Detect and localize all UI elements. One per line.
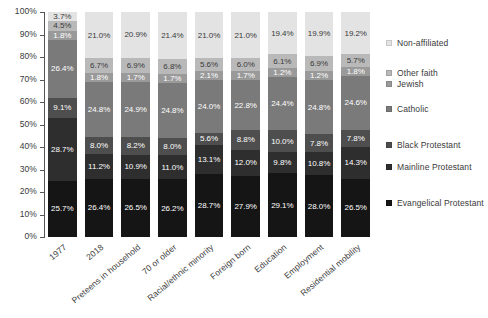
bar-segment[interactable]: 1.8% bbox=[85, 73, 114, 82]
bar-segment[interactable]: 1.7% bbox=[231, 71, 260, 80]
bar-segment[interactable]: 13.1% bbox=[195, 145, 224, 174]
bar-segment[interactable]: 6.9% bbox=[305, 56, 334, 71]
bar-column[interactable]: 3.7%4.5%1.8%26.4%9.1%28.7%25.7% bbox=[44, 12, 81, 237]
bar-segment[interactable]: 24.8% bbox=[85, 82, 114, 137]
bar-segment[interactable]: 10.9% bbox=[121, 155, 150, 179]
bar-segment[interactable]: 26.2% bbox=[158, 179, 187, 237]
bar-segment[interactable]: 5.6% bbox=[195, 58, 224, 70]
bar-segment[interactable]: 8.0% bbox=[85, 137, 114, 155]
bar-segment[interactable]: 26.4% bbox=[85, 179, 114, 237]
bar-segment-value-label: 8.0% bbox=[90, 141, 108, 150]
bar-segment-value-label: 4.5% bbox=[53, 21, 71, 30]
legend-item[interactable]: Black Protestant bbox=[386, 140, 461, 150]
bar-segment[interactable]: 24.8% bbox=[158, 83, 187, 138]
bar-segment[interactable]: 24.6% bbox=[341, 76, 370, 130]
bar-segment[interactable]: 19.4% bbox=[268, 12, 297, 54]
legend-item[interactable]: Jewish bbox=[386, 79, 424, 89]
bar-segment[interactable]: 25.7% bbox=[48, 181, 77, 237]
bar-segment[interactable]: 28.7% bbox=[48, 118, 77, 181]
bar-segment-value-label: 1.8% bbox=[53, 31, 71, 40]
bar-segment[interactable]: 12.0% bbox=[231, 150, 260, 176]
x-axis-label-cell: Residential mobility bbox=[337, 240, 374, 318]
legend-swatch-icon bbox=[386, 164, 392, 170]
bar-segment[interactable]: 21.0% bbox=[231, 12, 260, 58]
bar-segment[interactable]: 26.5% bbox=[121, 179, 150, 237]
bar-segment-value-label: 6.0% bbox=[237, 60, 255, 69]
bar-segment[interactable]: 10.0% bbox=[268, 130, 297, 152]
bar-segment-value-label: 10.8% bbox=[308, 159, 330, 168]
bar-segment[interactable]: 1.8% bbox=[341, 67, 370, 76]
y-axis-tick-label: 0% bbox=[25, 231, 38, 241]
bar-segment[interactable]: 8.0% bbox=[158, 138, 187, 156]
bar-segment[interactable]: 27.9% bbox=[231, 176, 260, 237]
bar-segment[interactable]: 1.7% bbox=[158, 74, 187, 83]
bar-segment[interactable]: 21.0% bbox=[85, 12, 114, 58]
bar-segment[interactable]: 9.8% bbox=[268, 152, 297, 173]
bar-segment[interactable]: 8.8% bbox=[231, 130, 260, 149]
bar-segment[interactable]: 3.7% bbox=[48, 12, 77, 21]
legend-item[interactable]: Other faith bbox=[386, 68, 438, 78]
x-axis-label-cell: Foreign born bbox=[227, 240, 264, 318]
bar-segment[interactable]: 26.5% bbox=[341, 179, 370, 237]
bar-column[interactable]: 21.0%6.7%1.8%24.8%8.0%11.2%26.4% bbox=[81, 12, 118, 237]
legend-item[interactable]: Catholic bbox=[386, 104, 429, 114]
bar-segment[interactable]: 11.2% bbox=[85, 154, 114, 179]
bar-segment-value-label: 24.8% bbox=[88, 105, 110, 114]
bar-segment-value-label: 28.7% bbox=[51, 145, 73, 154]
bar-column[interactable]: 19.4%6.1%1.2%24.4%10.0%9.8%29.1% bbox=[264, 12, 301, 237]
bar-segment[interactable]: 10.8% bbox=[305, 152, 334, 176]
bar-segment[interactable]: 6.7% bbox=[85, 58, 114, 73]
bar-segment[interactable]: 7.8% bbox=[305, 134, 334, 151]
bar-segment[interactable]: 26.4% bbox=[48, 40, 77, 98]
bar-column[interactable]: 21.0%5.6%2.1%24.0%5.6%13.1%28.7% bbox=[191, 12, 228, 237]
bar-segment[interactable]: 2.1% bbox=[195, 71, 224, 80]
bar-segment-value-label: 21.4% bbox=[161, 31, 183, 40]
y-axis-tick-label: 70% bbox=[20, 74, 37, 84]
bar-segment[interactable]: 1.7% bbox=[121, 73, 150, 82]
bar-segment[interactable]: 6.9% bbox=[121, 58, 150, 73]
bar-segment[interactable]: 8.2% bbox=[121, 137, 150, 155]
bar-segment[interactable]: 5.7% bbox=[341, 54, 370, 67]
bar-segment[interactable]: 20.9% bbox=[121, 12, 150, 58]
bar-segment[interactable]: 4.5% bbox=[48, 21, 77, 31]
bar-segment[interactable]: 1.2% bbox=[268, 68, 297, 77]
bar-segment[interactable]: 24.8% bbox=[305, 80, 334, 135]
legend-item[interactable]: Non-affiliated bbox=[386, 38, 448, 48]
legend-item[interactable]: Evangelical Protestant bbox=[386, 198, 484, 208]
bar-segment[interactable]: 19.9% bbox=[305, 12, 334, 56]
bar-segment[interactable]: 24.4% bbox=[268, 77, 297, 130]
bar-segment[interactable]: 19.2% bbox=[341, 12, 370, 54]
legend-swatch-icon bbox=[386, 70, 392, 76]
bar-segment-value-label: 28.7% bbox=[198, 201, 220, 210]
bar-segment[interactable]: 1.8% bbox=[48, 31, 77, 40]
bar-segment-value-label: 24.8% bbox=[161, 106, 183, 115]
bar-segment[interactable]: 24.9% bbox=[121, 82, 150, 137]
bar-column[interactable]: 20.9%6.9%1.7%24.9%8.2%10.9%26.5% bbox=[117, 12, 154, 237]
bar-segment[interactable]: 6.0% bbox=[231, 58, 260, 71]
bar-column[interactable]: 21.0%6.0%1.7%22.8%8.8%12.0%27.9% bbox=[227, 12, 264, 237]
y-axis-tick-label: 20% bbox=[20, 186, 37, 196]
bar-segment[interactable]: 6.1% bbox=[268, 54, 297, 67]
bar-segment[interactable]: 11.0% bbox=[158, 155, 187, 179]
bar-segment-value-label: 24.8% bbox=[308, 103, 330, 112]
bar-segment[interactable]: 29.1% bbox=[268, 173, 297, 237]
bar-column[interactable]: 21.4%6.8%1.7%24.8%8.0%11.0%26.2% bbox=[154, 12, 191, 237]
bar-column[interactable]: 19.2%5.7%1.8%24.6%7.8%14.3%26.5% bbox=[337, 12, 374, 237]
bar-segment[interactable]: 7.8% bbox=[341, 130, 370, 147]
y-axis-tick-label: 100% bbox=[15, 6, 37, 16]
bar-segment-value-label: 26.5% bbox=[124, 203, 146, 212]
bar-segment[interactable]: 21.4% bbox=[158, 12, 187, 59]
bar-segment[interactable]: 1.2% bbox=[305, 71, 334, 80]
bar-segment[interactable]: 28.0% bbox=[305, 175, 334, 237]
bar-column[interactable]: 19.9%6.9%1.2%24.8%7.8%10.8%28.0% bbox=[301, 12, 338, 237]
bar-segment[interactable]: 6.8% bbox=[158, 59, 187, 74]
bar-segment[interactable]: 28.7% bbox=[195, 174, 224, 237]
bar-segment[interactable]: 24.0% bbox=[195, 80, 224, 133]
bar-segment[interactable]: 14.3% bbox=[341, 147, 370, 178]
bar-segment[interactable]: 21.0% bbox=[195, 12, 224, 58]
bar-segment[interactable]: 9.1% bbox=[48, 98, 77, 118]
bar-segment[interactable]: 22.8% bbox=[231, 80, 260, 130]
bar-segment[interactable]: 5.6% bbox=[195, 133, 224, 145]
legend-item[interactable]: Mainline Protestant bbox=[386, 162, 472, 172]
legend-item-label: Non-affiliated bbox=[397, 38, 448, 48]
